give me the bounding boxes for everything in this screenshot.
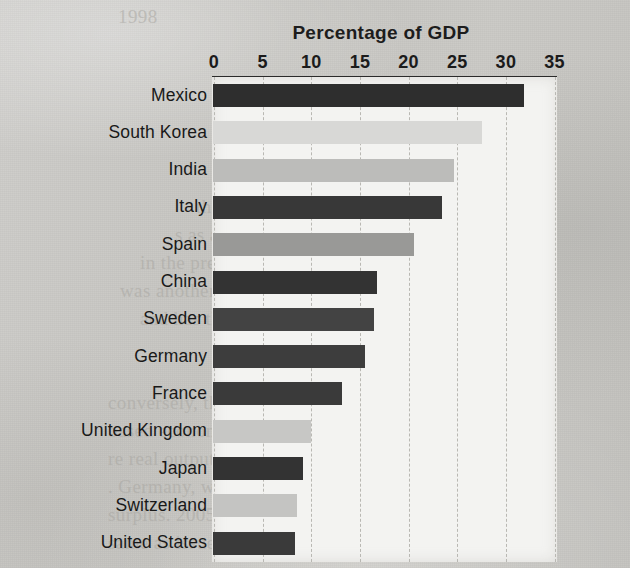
category-label: France xyxy=(0,383,207,404)
x-tick-label: 30 xyxy=(496,52,517,73)
bar xyxy=(213,308,374,331)
category-label: Japan xyxy=(0,458,207,479)
x-tick-label: 5 xyxy=(257,52,267,73)
bar-chart-figure: Percentage of GDP 05101520253035 MexicoS… xyxy=(0,0,630,568)
x-tick-label: 0 xyxy=(209,52,219,73)
bar xyxy=(213,382,342,405)
x-tick-label: 10 xyxy=(301,52,322,73)
category-label: Spain xyxy=(0,234,207,255)
bar xyxy=(213,233,414,256)
category-label: Switzerland xyxy=(0,495,207,516)
bar xyxy=(213,84,524,107)
category-label: Germany xyxy=(0,346,207,367)
plot-area xyxy=(212,77,557,562)
category-label: United Kingdom xyxy=(0,420,207,441)
category-label: Mexico xyxy=(0,85,207,106)
category-label: Sweden xyxy=(0,308,207,329)
x-tick-label: 20 xyxy=(398,52,419,73)
bar xyxy=(213,420,311,443)
x-axis-tick-labels: 05101520253035 xyxy=(0,52,630,76)
bar xyxy=(213,532,295,555)
x-tick-label: 35 xyxy=(544,52,565,73)
bar xyxy=(213,271,377,294)
bar xyxy=(213,196,442,219)
category-label: China xyxy=(0,271,207,292)
category-label: India xyxy=(0,159,207,180)
category-label: South Korea xyxy=(0,122,207,143)
bar xyxy=(213,159,454,182)
category-label: Italy xyxy=(0,196,207,217)
bar-series xyxy=(212,77,557,562)
bar xyxy=(213,494,297,517)
x-tick-label: 25 xyxy=(447,52,468,73)
chart-title: Percentage of GDP xyxy=(196,22,566,44)
bar xyxy=(213,457,303,480)
bar xyxy=(213,121,482,144)
category-label: United States xyxy=(0,532,207,553)
category-axis-labels: MexicoSouth KoreaIndiaItalySpainChinaSwe… xyxy=(0,77,207,562)
x-tick-label: 15 xyxy=(350,52,371,73)
bar xyxy=(213,345,365,368)
